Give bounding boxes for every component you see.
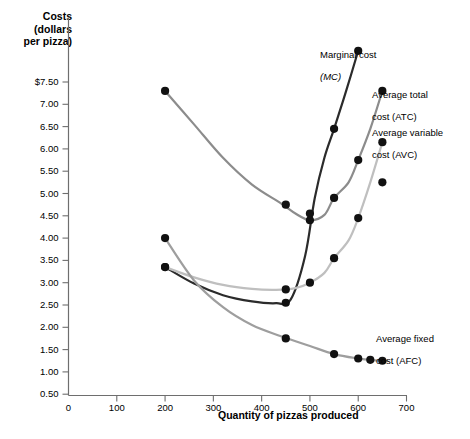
data-point-avc (282, 285, 290, 293)
y-axis-ticks (63, 82, 69, 394)
data-point-avc (378, 178, 386, 186)
data-point-afc (354, 354, 362, 362)
y-tick-label: 6.50 (19, 122, 59, 132)
data-point-avc (161, 263, 169, 271)
y-tick-label: 3.50 (19, 255, 59, 265)
x-tick-label: 500 (290, 403, 330, 413)
curve-label-mc-line2: (MC) (320, 71, 341, 82)
cost-curves-chart: Costs (dollars per pizza) Quantity of pi… (0, 0, 470, 439)
curve-afc (165, 238, 387, 361)
data-point-avc (306, 279, 314, 287)
y-tick-label: $7.50 (19, 77, 59, 87)
x-tick-label: 400 (242, 403, 282, 413)
y-tick-label: 7.00 (19, 99, 59, 109)
y-tick-label: 2.00 (19, 322, 59, 332)
y-tick-label: 3.00 (19, 278, 59, 288)
data-point-atc (330, 194, 338, 202)
curve-label-avc-line2: cost (AVC) (372, 149, 417, 160)
curve-label-mc: Marginal cost (MC) (320, 38, 377, 82)
x-axis-ticks (117, 396, 407, 402)
data-point-mc (282, 299, 290, 307)
curve-label-avc: Average variable cost (AVC) (372, 116, 443, 160)
curve-label-mc-line1: Marginal cost (320, 49, 377, 60)
y-tick-label: 4.00 (19, 233, 59, 243)
curve-label-atc-line1: Average total (372, 89, 428, 100)
cost-curves (165, 51, 387, 361)
y-tick-label: 6.00 (19, 144, 59, 154)
x-tick-label: 100 (97, 403, 137, 413)
x-tick-label: 700 (387, 403, 427, 413)
y-tick-label: 4.50 (19, 211, 59, 221)
y-tick-label: 2.50 (19, 300, 59, 310)
data-point-atc (354, 156, 362, 164)
y-tick-label: 0.50 (19, 389, 59, 399)
x-tick-label: 200 (145, 403, 185, 413)
y-tick-label: 1.50 (19, 345, 59, 355)
data-point-avc (330, 254, 338, 262)
data-point-mc (330, 125, 338, 133)
x-tick-label: 300 (193, 403, 233, 413)
curve-label-avc-line1: Average variable (372, 127, 443, 138)
data-point-avc (354, 214, 362, 222)
plot-area (0, 0, 470, 439)
y-tick-label: 5.00 (19, 189, 59, 199)
data-point-afc (366, 356, 374, 364)
x-tick-label: 0 (49, 403, 89, 413)
curve-label-afc: Average fixed cost (AFC) (376, 322, 434, 366)
data-point-afc (282, 334, 290, 342)
curve-label-afc-line2: cost (AFC) (376, 355, 421, 366)
curve-avc (165, 142, 382, 290)
data-point-atc (282, 201, 290, 209)
x-tick-label: 600 (338, 403, 378, 413)
data-point-atc (161, 87, 169, 95)
data-point-atc (306, 216, 314, 224)
data-point-afc (330, 350, 338, 358)
data-point-afc (161, 234, 169, 242)
y-tick-label: 5.50 (19, 166, 59, 176)
curve-atc (165, 91, 382, 220)
y-tick-label: 1.00 (19, 367, 59, 377)
curve-label-afc-line1: Average fixed (376, 333, 434, 344)
